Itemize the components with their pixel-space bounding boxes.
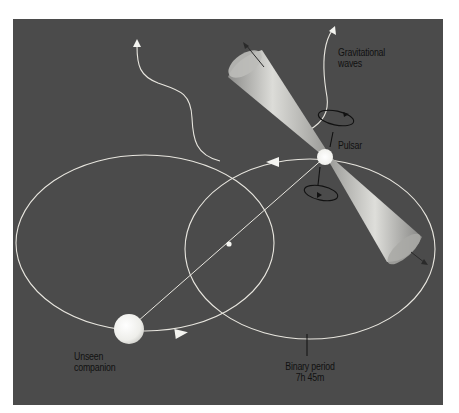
companion-label: Unseen companion	[74, 351, 115, 373]
center-of-mass-dot	[226, 241, 231, 246]
pulsar-star	[317, 149, 333, 165]
binary-pulsar-figure: Gravitational waves Pulsar Unseen compan…	[0, 0, 459, 413]
diagram-canvas	[0, 0, 459, 413]
binary-period-label: Binary period 7h 45m	[282, 361, 338, 383]
gravitational-waves-label-line1: Gravitational	[338, 47, 385, 58]
binary-period-label-line2: 7h 45m	[282, 372, 338, 383]
pulsar-label-text: Pulsar	[338, 140, 362, 151]
pulsar-label: Pulsar	[338, 140, 362, 151]
gravitational-waves-label: Gravitational waves	[338, 47, 385, 69]
unseen-companion-star	[114, 314, 144, 344]
gravitational-waves-label-line2: waves	[338, 58, 385, 69]
binary-period-label-line1: Binary period	[282, 361, 338, 372]
companion-label-line1: Unseen	[74, 351, 115, 362]
companion-label-line2: companion	[74, 362, 115, 373]
